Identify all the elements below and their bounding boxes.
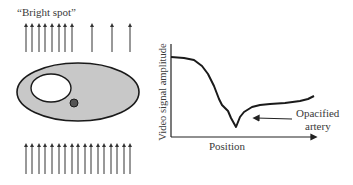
arrowhead-icon	[63, 143, 67, 147]
arrowhead-icon	[57, 23, 61, 27]
arrowhead-icon	[43, 23, 47, 27]
arrowhead-icon	[89, 143, 93, 147]
arrowhead-icon	[115, 143, 119, 147]
arrowhead-icon	[109, 143, 113, 147]
arrowhead-icon	[110, 23, 114, 27]
arrowhead-icon	[57, 143, 61, 147]
bottom-xray-arrows	[24, 143, 132, 174]
arrowhead-icon	[122, 143, 126, 147]
diagram-canvas: “Bright spot” Opacified artery Position …	[0, 0, 353, 185]
arrowhead-icon	[24, 143, 28, 147]
arrowhead-icon	[128, 143, 132, 147]
arrowhead-icon	[83, 143, 87, 147]
air-cavity	[31, 74, 71, 102]
arrowhead-icon	[102, 143, 106, 147]
annotation-line2: artery	[305, 120, 331, 132]
arrowhead-icon	[30, 143, 34, 147]
opacified-artery-dot	[70, 99, 78, 107]
arrowhead-icon	[37, 23, 41, 27]
y-axis-label: Video signal amplitude	[157, 43, 168, 141]
bright-spot-caption: “Bright spot”	[17, 6, 76, 18]
annotation-line1: Opacified	[296, 107, 340, 119]
annotation-arrow	[256, 118, 292, 119]
arrowhead-icon	[50, 23, 54, 27]
arrowhead-icon	[63, 23, 67, 27]
arrowhead-icon	[128, 23, 132, 27]
arrowhead-icon	[24, 23, 28, 27]
top-xray-arrows	[24, 23, 132, 52]
signal-curve	[171, 57, 314, 127]
arrowhead-icon	[43, 143, 47, 147]
arrowhead-icon	[70, 23, 74, 27]
x-axis-label: Position	[209, 140, 246, 152]
arrowhead-icon	[76, 143, 80, 147]
arrowhead-icon	[90, 23, 94, 27]
arrowhead-icon	[70, 143, 74, 147]
arrowhead-icon	[30, 23, 34, 27]
arrowhead-icon	[96, 143, 100, 147]
arrowhead-icon	[50, 143, 54, 147]
arrowhead-icon	[37, 143, 41, 147]
